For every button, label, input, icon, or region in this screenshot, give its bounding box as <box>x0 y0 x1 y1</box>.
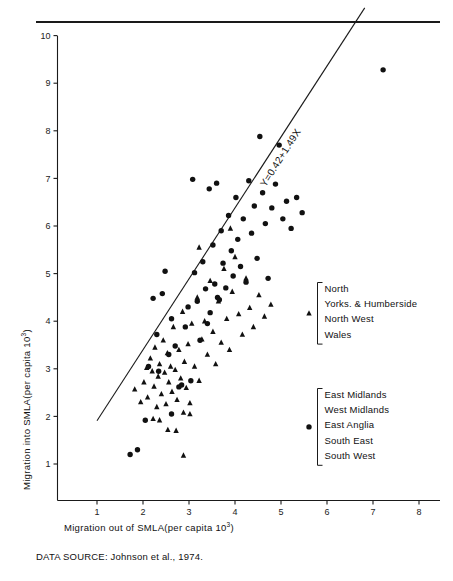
data-point-triangle <box>166 379 171 384</box>
y-axis-tick-label: 6 <box>45 221 50 231</box>
data-point-triangle <box>163 401 168 406</box>
data-point-circle <box>233 195 238 200</box>
y-axis-tick-label: 5 <box>45 269 50 279</box>
legend-item-label: East Anglia <box>325 419 375 430</box>
data-point-circle <box>263 221 268 226</box>
data-point-triangle <box>165 427 170 432</box>
data-point-triangle <box>161 337 166 342</box>
data-point-circle <box>246 178 251 183</box>
data-point-triangle <box>213 361 218 366</box>
data-point-circle <box>166 352 171 357</box>
x-axis-tick-label: 4 <box>232 507 237 517</box>
data-point-circle <box>135 447 140 452</box>
data-point-circle <box>156 368 161 373</box>
data-point-triangle <box>221 266 226 271</box>
data-point-circle <box>226 213 231 218</box>
legend-bracket <box>318 389 323 466</box>
data-point-triangle <box>187 411 192 416</box>
data-point-triangle <box>169 389 174 394</box>
data-point-circle <box>288 226 293 231</box>
x-axis-tick-label: 6 <box>324 507 329 517</box>
data-point-circle <box>257 134 262 139</box>
data-point-circle <box>210 242 215 247</box>
data-point-circle <box>220 260 225 265</box>
data-point-circle <box>252 203 257 208</box>
data-source-note: DATA SOURCE: Johnson et al., 1974. <box>36 551 203 562</box>
data-point-circle <box>160 291 165 296</box>
data-point-triangle <box>181 452 186 457</box>
data-point-triangle <box>148 355 153 360</box>
data-point-triangle <box>224 316 229 321</box>
y-axis-tick-label: 2 <box>45 412 50 422</box>
data-point-circle <box>219 228 224 233</box>
data-point-circle <box>249 230 254 235</box>
data-point-circle <box>190 177 195 182</box>
data-point-circle <box>241 216 246 221</box>
data-point-triangle <box>205 351 210 356</box>
data-point-triangle <box>196 378 201 383</box>
data-point-circle <box>143 418 148 423</box>
data-point-circle <box>230 273 235 278</box>
data-point-triangle <box>173 367 178 372</box>
y-axis-tick-label: 3 <box>45 364 50 374</box>
legend-group-2: East MidlandsWest MidlandsEast AngliaSou… <box>306 389 389 466</box>
data-point-triangle <box>185 341 190 346</box>
data-point-circle <box>192 270 197 275</box>
x-axis-tick-label: 1 <box>94 507 99 517</box>
data-point-triangle <box>256 292 261 297</box>
data-point-circle <box>269 205 274 210</box>
data-point-circle <box>207 310 212 315</box>
data-point-triangle <box>228 225 233 230</box>
data-point-triangle <box>162 370 167 375</box>
data-point-triangle <box>180 309 185 314</box>
legend-item-label: East Midlands <box>325 389 387 400</box>
x-axis-tick-label: 8 <box>416 507 421 517</box>
legend-item-label: North West <box>325 313 374 324</box>
data-point-triangle <box>154 404 159 409</box>
x-axis-tick-label: 3 <box>186 507 191 517</box>
data-point-circle <box>173 343 178 348</box>
data-point-circle <box>284 199 289 204</box>
legend-item-label: South West <box>325 450 376 461</box>
x-axis-tick-label: 2 <box>140 507 145 517</box>
data-point-circle <box>200 259 205 264</box>
data-point-circle <box>229 248 234 253</box>
data-point-triangle <box>227 347 232 352</box>
axes-group <box>58 36 441 501</box>
data-point-triangle <box>157 417 162 422</box>
data-point-circle <box>260 190 265 195</box>
data-point-circle <box>299 210 304 215</box>
data-point-triangle <box>173 428 178 433</box>
y-axis-tick-label: 4 <box>45 316 50 326</box>
data-point-triangle <box>192 363 197 368</box>
data-point-triangle <box>187 400 192 405</box>
data-point-circle <box>265 276 270 281</box>
regression-equation-label: Y=0.42+1.49X <box>258 127 303 189</box>
data-point-triangle <box>141 379 146 384</box>
data-point-circle <box>197 338 202 343</box>
scatter-plot: 1234567891012345678 Y=0.42+1.49X NorthYo… <box>0 0 453 581</box>
data-point-circle <box>294 195 299 200</box>
legend-group-1: NorthYorks. & HumbersideNorth WestWales <box>306 283 417 345</box>
data-point-triangle <box>150 416 155 421</box>
data-point-circle <box>146 364 151 369</box>
data-point-circle <box>127 452 132 457</box>
legend-item-label: South East <box>325 435 374 446</box>
legend-item-label: West Midlands <box>325 404 390 415</box>
data-point-circle <box>154 332 159 337</box>
data-point-triangle <box>151 383 156 388</box>
data-point-circle <box>203 286 208 291</box>
legend-triangle-marker <box>306 310 311 315</box>
data-point-circle <box>223 285 228 290</box>
y-axis-title: Migration into SMLA(per capita 103) <box>20 329 32 490</box>
data-point-circle <box>169 411 174 416</box>
data-point-triangle <box>132 386 137 391</box>
data-point-circle <box>188 378 193 383</box>
data-point-triangle <box>207 278 212 283</box>
x-axis-tick-label: 7 <box>370 507 375 517</box>
data-point-triangle <box>189 320 194 325</box>
data-point-triangle <box>178 375 183 380</box>
data-point-circle <box>238 264 243 269</box>
data-point-circle <box>179 382 184 387</box>
data-point-triangle <box>230 289 235 294</box>
